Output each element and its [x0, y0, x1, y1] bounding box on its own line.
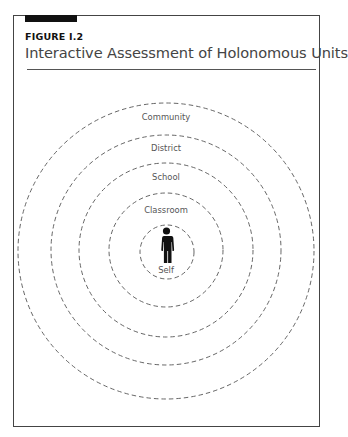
label-community: Community	[142, 112, 191, 122]
person-icon	[161, 227, 174, 263]
label-district: District	[151, 143, 182, 153]
label-self: Self	[158, 265, 175, 275]
label-school: School	[152, 172, 180, 182]
label-classroom: Classroom	[144, 205, 188, 215]
